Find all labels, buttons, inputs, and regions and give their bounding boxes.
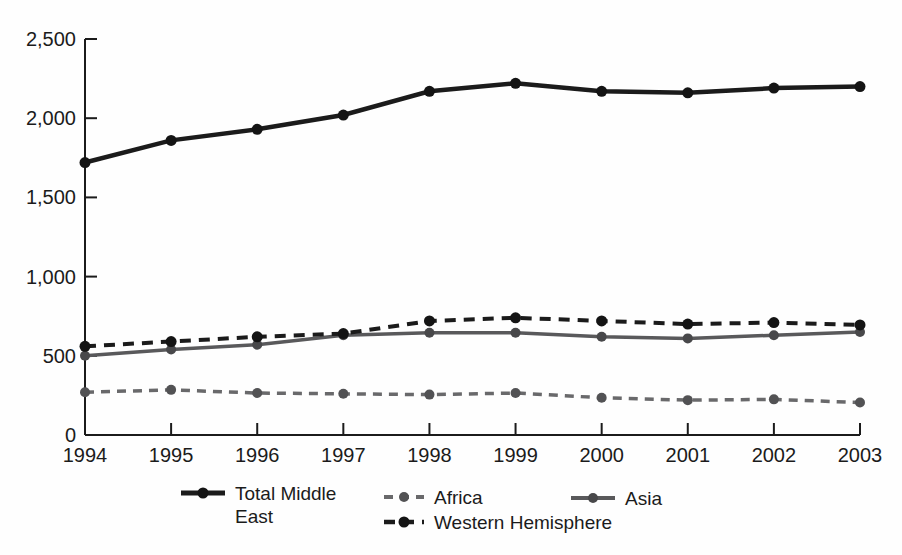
- total-middle-east-point: [682, 87, 693, 98]
- x-tick-label: 2001: [666, 444, 711, 466]
- asia-point: [683, 333, 693, 343]
- asia-point: [597, 332, 607, 342]
- legend-item-asia: Asia: [570, 487, 662, 510]
- y-tick-label: 0: [65, 424, 76, 446]
- y-tick-label: 1,500: [26, 186, 76, 208]
- asia-swatch-icon: [570, 490, 616, 506]
- africa-point: [80, 387, 90, 397]
- africa-point: [166, 385, 176, 395]
- africa-swatch-icon: [383, 489, 425, 505]
- asia-point: [511, 328, 521, 338]
- x-tick-label: 1997: [321, 444, 366, 466]
- western-hemisphere-point: [252, 331, 263, 342]
- western-hemisphere-point: [768, 317, 779, 328]
- x-tick-label: 1999: [493, 444, 538, 466]
- africa-point: [424, 390, 434, 400]
- legend-label-africa: Africa: [434, 486, 483, 509]
- africa-line: [85, 390, 860, 403]
- y-tick-label: 2,000: [26, 107, 76, 129]
- total-middle-east-point: [166, 135, 177, 146]
- legend-label-western-hemisphere: Western Hemisphere: [434, 511, 612, 534]
- western-hemisphere-point: [338, 328, 349, 339]
- africa-point: [338, 389, 348, 399]
- legend-item-total-middle-east: Total Middle East: [180, 482, 353, 528]
- asia-swatch-marker: [588, 493, 598, 503]
- western-hemisphere-point: [424, 315, 435, 326]
- x-tick-label: 1996: [235, 444, 280, 466]
- x-tick-label: 1994: [63, 444, 108, 466]
- x-tick-label: 2003: [838, 444, 883, 466]
- total-middle-east-point: [424, 86, 435, 97]
- legend-label-total-middle-east: Total Middle East: [235, 482, 353, 528]
- asia-line: [85, 332, 860, 356]
- africa-point: [683, 395, 693, 405]
- western-hemisphere-point: [855, 319, 866, 330]
- western-hemisphere-point: [510, 312, 521, 323]
- y-tick-label: 1,000: [26, 266, 76, 288]
- total-middle-east-line: [85, 83, 860, 162]
- africa-swatch-marker: [399, 492, 409, 502]
- x-tick-label: 2002: [752, 444, 797, 466]
- total-middle-east-point: [596, 86, 607, 97]
- x-tick-label: 2000: [579, 444, 624, 466]
- x-tick-label: 1995: [149, 444, 194, 466]
- x-tick-label: 1998: [407, 444, 452, 466]
- africa-point: [769, 394, 779, 404]
- western-hemisphere-point: [80, 341, 91, 352]
- y-tick-label: 500: [43, 345, 76, 367]
- asia-point: [769, 330, 779, 340]
- africa-point: [597, 393, 607, 403]
- western-hemisphere-point: [682, 319, 693, 330]
- western-hemisphere-point: [166, 336, 177, 347]
- asia-point: [424, 328, 434, 338]
- legend-label-asia: Asia: [625, 487, 662, 510]
- asia-point: [80, 351, 90, 361]
- africa-point: [252, 388, 262, 398]
- total-middle-east-point: [252, 124, 263, 135]
- total-middle-east-point: [338, 110, 349, 121]
- legend-item-western-hemisphere: Western Hemisphere: [383, 511, 612, 534]
- africa-point: [511, 388, 521, 398]
- chart-legend: Total Middle East Africa Western Hemisph…: [0, 0, 902, 85]
- total-middle-east-swatch-marker: [198, 488, 209, 499]
- western-hemisphere-swatch-marker: [399, 517, 410, 528]
- legend-item-africa: Africa: [383, 486, 483, 509]
- chart-figure: 05001,0001,5002,0002,5001994199519961997…: [0, 0, 902, 555]
- total-middle-east-swatch-icon: [180, 485, 226, 501]
- western-hemisphere-point: [596, 315, 607, 326]
- africa-point: [855, 398, 865, 408]
- total-middle-east-point: [80, 157, 91, 168]
- western-hemisphere-swatch-icon: [383, 514, 425, 530]
